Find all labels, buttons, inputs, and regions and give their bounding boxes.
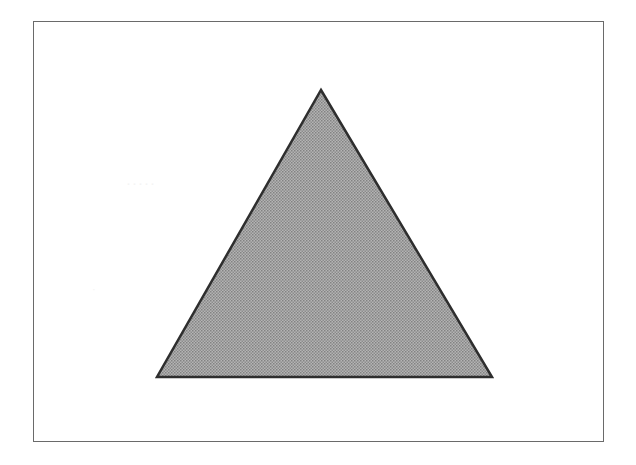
shaded-triangle (157, 90, 492, 377)
triangle-figure-svg (0, 0, 636, 465)
figure-drawing-area (0, 0, 636, 465)
figure-page: ····· · (0, 0, 636, 465)
